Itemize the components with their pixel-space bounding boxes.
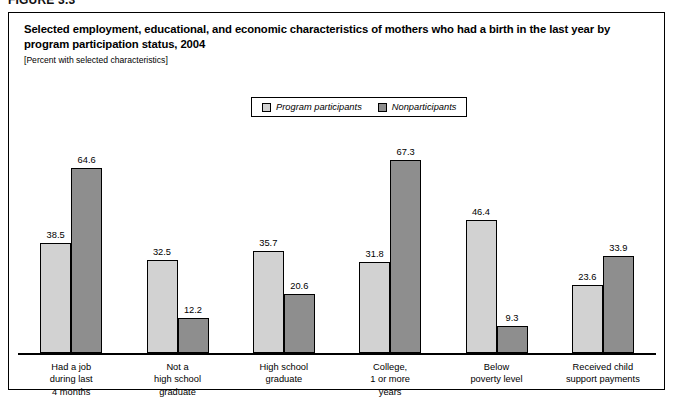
bar-program-participants: [359, 262, 390, 353]
legend-item-program-participants: Program participants: [262, 102, 362, 112]
category-label-line: Received child: [549, 361, 657, 373]
legend-label-program-participants: Program participants: [276, 102, 362, 112]
plot-area: 38.564.632.512.235.720.631.867.346.49.32…: [18, 131, 656, 355]
legend-item-nonparticipants: Nonparticipants: [378, 102, 457, 112]
figure-subtitle: [Percent with selected characteristics]: [24, 55, 168, 65]
category-label: High schoolgraduate: [230, 361, 338, 386]
chart-legend: Program participants Nonparticipants: [251, 97, 467, 117]
legend-label-nonparticipants: Nonparticipants: [392, 102, 457, 112]
bar-group: 46.49.3: [466, 131, 528, 353]
bar-item: 23.6: [572, 131, 603, 353]
category-label-line: High school: [230, 361, 338, 373]
category-label-line: 4 months: [17, 386, 125, 398]
figure-title: Selected employment, educational, and ec…: [24, 22, 644, 53]
bar-item: 67.3: [390, 131, 421, 353]
category-label-line: graduate: [124, 386, 232, 398]
category-label-line: during last: [17, 373, 125, 385]
bar-value-label: 64.6: [65, 156, 109, 165]
bar-nonparticipants: [178, 318, 209, 353]
figure-panel: Selected employment, educational, and ec…: [8, 12, 665, 390]
bar-item: 64.6: [71, 131, 102, 353]
category-label-line: high school: [124, 373, 232, 385]
bar-item: 12.2: [178, 131, 209, 353]
legend-swatch-program-participants: [262, 103, 271, 112]
bar-value-label: 9.3: [490, 314, 534, 323]
bar-item: 32.5: [147, 131, 178, 353]
category-label-line: poverty level: [443, 373, 551, 385]
axis-baseline: [18, 353, 656, 355]
category-label-line: College,: [336, 361, 444, 373]
bar-item: 35.7: [253, 131, 284, 353]
bar-item: 33.9: [603, 131, 634, 353]
bar-nonparticipants: [71, 168, 102, 353]
bar-value-label: 20.6: [277, 282, 321, 291]
bar-item: 9.3: [497, 131, 528, 353]
category-label-line: Below: [443, 361, 551, 373]
bar-program-participants: [40, 243, 71, 353]
bar-group: 23.633.9: [572, 131, 634, 353]
bar-item: 31.8: [359, 131, 390, 353]
category-label-line: graduate: [230, 373, 338, 385]
bar-program-participants: [572, 285, 603, 353]
bar-program-participants: [253, 251, 284, 353]
category-label-line: support payments: [549, 373, 657, 385]
bar-group: 31.867.3: [359, 131, 421, 353]
bar-program-participants: [466, 220, 497, 353]
bar-item: 20.6: [284, 131, 315, 353]
category-label: Belowpoverty level: [443, 361, 551, 386]
bar-group: 32.512.2: [147, 131, 209, 353]
bar-value-label: 33.9: [596, 244, 640, 253]
figure-number: FIGURE 3.3: [8, 0, 75, 7]
bar-nonparticipants: [284, 294, 315, 353]
category-label-line: Not a: [124, 361, 232, 373]
category-label: Not ahigh schoolgraduate: [124, 361, 232, 398]
category-label-line: years: [336, 386, 444, 398]
category-label: Had a jobduring last4 months: [17, 361, 125, 398]
legend-swatch-nonparticipants: [378, 103, 387, 112]
bar-value-label: 67.3: [384, 148, 428, 157]
bar-nonparticipants: [497, 326, 528, 353]
category-label: College,1 or moreyears: [336, 361, 444, 398]
bar-group: 35.720.6: [253, 131, 315, 353]
bar-nonparticipants: [603, 256, 634, 353]
category-label-line: Had a job: [17, 361, 125, 373]
bar-group: 38.564.6: [40, 131, 102, 353]
category-axis-labels: Had a jobduring last4 monthsNot ahigh sc…: [18, 361, 656, 401]
category-label-line: 1 or more: [336, 373, 444, 385]
bar-value-label: 12.2: [171, 306, 215, 315]
category-label: Received childsupport payments: [549, 361, 657, 386]
bar-nonparticipants: [390, 160, 421, 353]
